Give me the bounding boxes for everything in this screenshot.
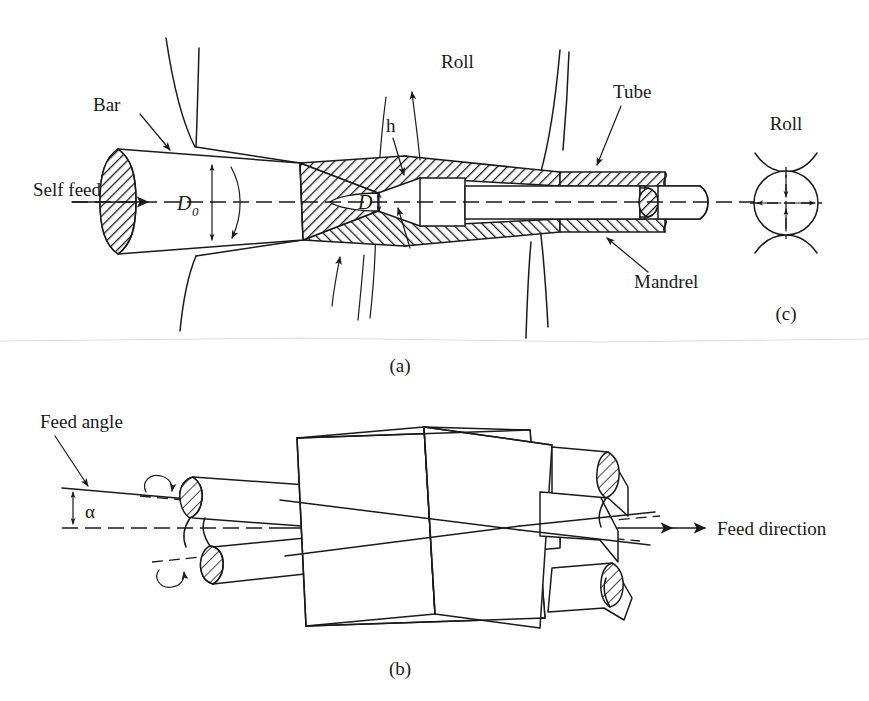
- lower-roll-right-inner-edge: [526, 242, 531, 338]
- panel-b-lower-roll-right: [548, 563, 632, 620]
- tube-lower-wall: [560, 219, 665, 232]
- mandrel-label: Mandrel: [634, 271, 698, 292]
- tube-upper-wall: [560, 172, 665, 186]
- alpha-dimension: α: [73, 492, 95, 524]
- roll-label-panel-a: Roll: [441, 51, 474, 72]
- tube-annotation: Tube: [597, 81, 651, 165]
- bar-annotation: Bar: [93, 94, 170, 150]
- feed-angle-leader-arrow: [55, 436, 88, 486]
- h-label: h: [386, 115, 396, 136]
- panel-b-caption: (b): [389, 658, 411, 680]
- d-symbol: D: [357, 191, 373, 213]
- d0-subscript: 0: [192, 204, 199, 219]
- upper-roll-left-edge: [166, 38, 195, 147]
- lower-roll-direction-arrow: [332, 257, 340, 306]
- self-feed-label: Self feed: [33, 179, 102, 200]
- feed-angle-annotation: Feed angle: [40, 411, 123, 486]
- panel-c-caption: (c): [775, 303, 796, 325]
- upper-roll-rotation-arrow: [145, 475, 173, 492]
- panel-c: Roll (c): [750, 113, 822, 325]
- roll-label-panel-c: Roll: [770, 113, 803, 134]
- technical-diagram-svg: Self feed Bar D 0 D h Roll: [0, 0, 869, 701]
- roll-gap-curve-left-lower: [358, 255, 364, 320]
- upper-roll-direction-arrow: [412, 92, 420, 160]
- upper-roll-neck-curve: [184, 518, 190, 547]
- upper-roll-right-edge: [540, 50, 560, 175]
- scan-artifact-line: [0, 338, 869, 342]
- lower-roll-rotation-arrow: [157, 570, 184, 587]
- feed-direction-label: Feed direction: [717, 518, 827, 539]
- mandrel-leader-arrow: [607, 238, 648, 272]
- alpha-label: α: [85, 501, 95, 522]
- upper-roll-right-body: [540, 492, 618, 562]
- lower-roll-neck-curve: [203, 518, 210, 546]
- d0-symbol: D: [176, 192, 192, 214]
- bar-leader-arrow: [140, 114, 170, 150]
- upper-roll-right-inner-edge: [563, 52, 569, 150]
- panel-a-caption: (a): [389, 355, 410, 377]
- workpiece-block-right: [424, 427, 552, 628]
- feed-angle-label: Feed angle: [40, 411, 123, 432]
- mandrel-annotation: Mandrel: [607, 238, 698, 292]
- lower-roll-left-edge: [180, 256, 196, 331]
- upper-roll-outline: [166, 38, 569, 175]
- figure-root: Self feed Bar D 0 D h Roll: [0, 0, 869, 701]
- panel-b: α Feed angle: [40, 411, 827, 680]
- upper-roll-left-inner-edge: [196, 48, 199, 147]
- lower-roll-right-edge: [540, 228, 548, 327]
- tube-leader-arrow: [597, 106, 621, 165]
- bar-label: Bar: [93, 94, 121, 115]
- panel-a: Self feed Bar D 0 D h Roll: [33, 38, 790, 377]
- tube-label: Tube: [613, 81, 651, 102]
